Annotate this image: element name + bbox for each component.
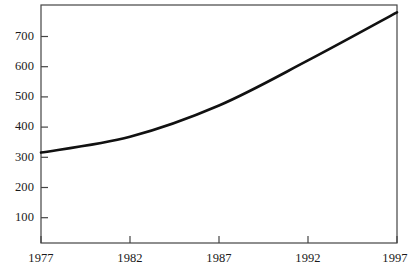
- y-axis-label-300: 300: [2, 151, 34, 164]
- x-axis-label-1992: 1992: [285, 252, 331, 265]
- data-series-line: [41, 12, 397, 152]
- y-axis-label-200: 200: [2, 181, 34, 194]
- y-axis-label-400: 400: [2, 120, 34, 133]
- y-axis-label-100: 100: [2, 211, 34, 224]
- chart-canvas: [0, 0, 410, 273]
- y-axis-label-600: 600: [2, 60, 34, 73]
- x-axis-label-1987: 1987: [196, 252, 242, 265]
- x-axis-label-1997: 1997: [372, 252, 410, 265]
- y-axis-ticks: [41, 37, 48, 218]
- y-axis-label-500: 500: [2, 90, 34, 103]
- line-chart-figure: 700 600 500 400 300 200 100 1977 1982 19…: [0, 0, 410, 273]
- x-axis-label-1982: 1982: [107, 252, 153, 265]
- x-axis-label-1977: 1977: [18, 252, 64, 265]
- x-axis-ticks: [41, 236, 397, 243]
- y-axis-label-700: 700: [2, 30, 34, 43]
